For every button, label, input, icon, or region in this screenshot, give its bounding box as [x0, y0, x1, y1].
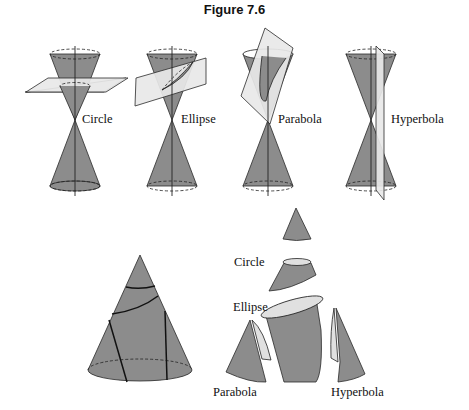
cut-cone: [88, 255, 192, 382]
circle-double-cone: [25, 46, 128, 196]
hyperbola-cutting-plane: [376, 46, 384, 200]
label-circle: Circle: [82, 112, 113, 126]
label-hyperbola: Hyperbola: [391, 112, 444, 126]
label-hyperbola-piece: Hyperbola: [331, 385, 384, 399]
exploded-pieces: [226, 208, 365, 382]
label-circle-piece: Circle: [234, 255, 265, 269]
conic-sections-diagram: .cone { fill:#8c8c8c; stroke:#2a2a2a; st…: [0, 0, 469, 410]
label-ellipse: Ellipse: [181, 112, 216, 126]
label-parabola-piece: Parabola: [213, 385, 257, 399]
hyperbola-double-cone: [346, 46, 396, 200]
label-ellipse-piece: Ellipse: [233, 300, 268, 314]
label-parabola: Parabola: [278, 112, 322, 126]
